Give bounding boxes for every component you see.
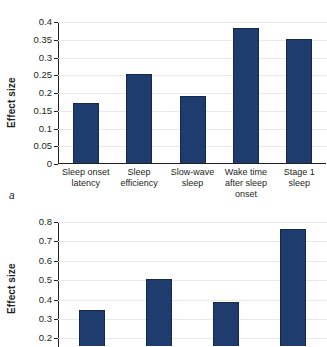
y-tick-label: 0.7 bbox=[39, 237, 52, 247]
bar bbox=[233, 28, 259, 163]
y-tick-mark bbox=[54, 129, 58, 130]
bar-slot bbox=[273, 22, 326, 163]
y-tick-label: 0.6 bbox=[39, 256, 52, 266]
x-axis-category-label: Sleep efficiency bbox=[112, 167, 165, 200]
x-axis-category-label: Slow-wave sleep bbox=[166, 167, 219, 200]
panel-letter-a: a bbox=[9, 190, 15, 201]
bar-slot bbox=[126, 222, 193, 346]
y-tick-mark bbox=[54, 338, 58, 339]
bar bbox=[79, 310, 105, 346]
y-tick-label: 0.5 bbox=[39, 275, 52, 285]
bar bbox=[286, 39, 312, 163]
y-tick-mark bbox=[54, 261, 58, 262]
y-tick-mark bbox=[54, 58, 58, 59]
bar bbox=[146, 279, 172, 346]
x-axis-line-a bbox=[58, 163, 326, 164]
bar-series-b bbox=[59, 222, 326, 346]
y-tick-label: 0.2 bbox=[39, 334, 52, 344]
plot-area-b: 0.20.30.40.50.60.70.8 bbox=[58, 222, 326, 347]
y-tick-label: 0.15 bbox=[34, 106, 53, 116]
y-tick-label: 0.1 bbox=[39, 124, 52, 134]
chart-panel-a: Effect size 00.050.10.150.20.250.30.350.… bbox=[0, 0, 323, 208]
y-tick-mark bbox=[54, 319, 58, 320]
y-tick-label: 0.05 bbox=[34, 142, 53, 152]
bar-slot bbox=[219, 22, 272, 163]
x-axis-category-label: Wake time after sleep onset bbox=[219, 167, 272, 200]
y-tick-label: 0 bbox=[47, 159, 52, 169]
plot-area-a: 00.050.10.150.20.250.30.350.4 bbox=[58, 22, 326, 164]
bar-slot bbox=[59, 22, 112, 163]
y-axis-title-b: Effect size bbox=[6, 263, 17, 314]
bar bbox=[73, 103, 99, 163]
y-tick-label: 0.35 bbox=[34, 35, 53, 45]
y-tick-mark bbox=[54, 241, 58, 242]
y-tick-label: 0.2 bbox=[39, 88, 52, 98]
y-tick-label: 0.3 bbox=[39, 53, 52, 63]
y-tick-label: 0.25 bbox=[34, 71, 53, 81]
y-tick-mark bbox=[54, 300, 58, 301]
y-tick-mark bbox=[54, 280, 58, 281]
bar bbox=[126, 74, 152, 163]
y-tick-mark bbox=[54, 146, 58, 147]
chart-panel-b: Effect size 0.20.30.40.50.60.70.8 bbox=[0, 208, 323, 322]
bar-series-a bbox=[59, 22, 326, 163]
bar-slot bbox=[59, 222, 126, 346]
y-tick-mark bbox=[54, 22, 58, 23]
y-tick-label: 0.3 bbox=[39, 314, 52, 324]
bar-slot bbox=[166, 22, 219, 163]
bar bbox=[280, 229, 306, 346]
y-tick-mark bbox=[54, 75, 58, 76]
bar-slot bbox=[259, 222, 326, 346]
y-tick-label: 0.4 bbox=[39, 295, 52, 305]
x-axis-category-label: Sleep onset latency bbox=[59, 167, 112, 200]
y-tick-mark bbox=[54, 93, 58, 94]
y-tick-mark bbox=[54, 111, 58, 112]
x-axis-category-labels-a: Sleep onset latencySleep efficiencySlow-… bbox=[59, 167, 326, 200]
y-tick-label: 0.4 bbox=[39, 17, 52, 27]
bar bbox=[180, 96, 206, 163]
bar-slot bbox=[112, 22, 165, 163]
y-tick-mark bbox=[54, 40, 58, 41]
y-tick-label: 0.8 bbox=[39, 217, 52, 227]
x-axis-category-label: Stage 1 sleep bbox=[273, 167, 326, 200]
bar bbox=[213, 302, 239, 346]
y-axis-title-a: Effect size bbox=[6, 77, 17, 128]
y-tick-mark bbox=[54, 164, 58, 165]
y-tick-mark bbox=[54, 222, 58, 223]
bar-slot bbox=[193, 222, 260, 346]
